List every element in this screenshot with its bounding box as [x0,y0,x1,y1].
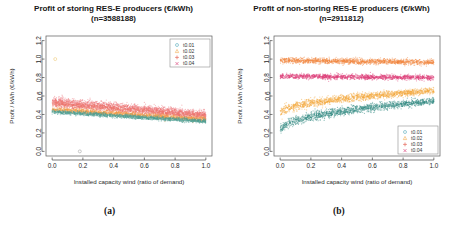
svg-text:t0.02: t0.02 [411,135,422,141]
svg-text:0.8: 0.8 [171,162,180,169]
panel-b-chart: 0.00.20.40.60.81.01.20.00.20.40.60.81.0I… [228,28,455,196]
svg-text:0.6: 0.6 [140,162,149,169]
panel-b-title-line1: Profit of non-storing RES-E producers (€… [228,4,455,14]
svg-text:0.6: 0.6 [264,91,271,100]
svg-text:1.2: 1.2 [36,36,43,45]
svg-text:t0.03: t0.03 [183,54,194,60]
svg-text:0.8: 0.8 [264,73,271,82]
panel-non-storing: Profit of non-storing RES-E producers (€… [228,0,455,196]
svg-text:0.2: 0.2 [306,162,315,169]
svg-text:0.4: 0.4 [109,162,118,169]
svg-text:1.2: 1.2 [264,36,271,45]
svg-text:1.0: 1.0 [264,54,271,63]
svg-text:Installed capacity wind (ratio: Installed capacity wind (ratio of demand… [302,178,413,185]
panel-a-title: Profit of storing RES-E producers (€/kWh… [0,4,227,23]
svg-text:1.0: 1.0 [429,162,438,169]
svg-text:Installed capacity wind (ratio: Installed capacity wind (ratio of demand… [74,178,185,185]
caption-b: (b) [333,206,345,216]
svg-text:0.2: 0.2 [36,128,43,137]
panel-b-title: Profit of non-storing RES-E producers (€… [228,4,455,23]
panel-a-chart: 0.00.20.40.60.81.01.20.00.20.40.60.81.0I… [0,28,227,196]
svg-text:t0.04: t0.04 [183,60,194,66]
svg-text:1.0: 1.0 [201,162,210,169]
svg-text:Profit / kWh (€/kWh): Profit / kWh (€/kWh) [236,68,243,123]
panel-a-plot-area: 0.00.20.40.60.81.01.20.00.20.40.60.81.0I… [0,28,227,196]
caption-a: (a) [104,206,115,216]
svg-text:0.8: 0.8 [36,73,43,82]
svg-text:t0.01: t0.01 [183,42,194,48]
svg-text:t0.04: t0.04 [411,147,422,153]
svg-text:0.0: 0.0 [276,162,285,169]
svg-text:0.2: 0.2 [78,162,87,169]
svg-text:Profit / kWh (€/kWh): Profit / kWh (€/kWh) [8,68,15,123]
svg-text:0.8: 0.8 [399,162,408,169]
svg-text:0.0: 0.0 [48,162,57,169]
svg-text:0.2: 0.2 [264,128,271,137]
svg-text:0.4: 0.4 [36,110,43,119]
figure-container: Profit of storing RES-E producers (€/kWh… [0,0,455,234]
panel-b-title-line2: (n=2911812) [228,14,455,23]
svg-text:0.0: 0.0 [36,147,43,156]
svg-text:0.6: 0.6 [368,162,377,169]
svg-text:0.6: 0.6 [36,91,43,100]
svg-text:t0.02: t0.02 [183,48,194,54]
panel-storing: Profit of storing RES-E producers (€/kWh… [0,0,227,196]
svg-text:0.4: 0.4 [264,110,271,119]
caption-row: (a) (b) [0,198,455,234]
svg-text:0.0: 0.0 [264,147,271,156]
svg-text:t0.03: t0.03 [411,141,422,147]
svg-text:1.0: 1.0 [36,54,43,63]
svg-text:t0.01: t0.01 [411,129,422,135]
svg-text:0.4: 0.4 [337,162,346,169]
panel-b-plot-area: 0.00.20.40.60.81.01.20.00.20.40.60.81.0I… [228,28,455,196]
panel-a-title-line1: Profit of storing RES-E producers (€/kWh… [0,4,227,14]
panel-a-title-line2: (n=3588188) [0,14,227,23]
